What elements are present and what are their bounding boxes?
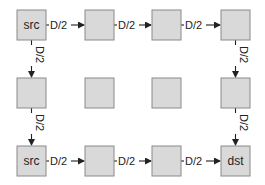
node-box (17, 78, 46, 108)
node-router (221, 10, 250, 40)
edge-label: D/2 (238, 114, 250, 131)
edge-label: D/2 (34, 46, 46, 63)
node-src: src (17, 10, 46, 40)
node-router (152, 146, 181, 176)
node-router (85, 146, 114, 176)
edge-arrow: D/2 (236, 108, 250, 145)
edge-arrow: D/2 (46, 155, 84, 167)
edge-arrow: D/2 (181, 19, 220, 31)
node-box (85, 146, 114, 176)
edge-arrow: D/2 (236, 40, 250, 77)
node-box (152, 78, 181, 108)
node-box (152, 146, 181, 176)
edge-label: D/2 (34, 114, 46, 131)
node-box (221, 78, 250, 108)
edge-label: D/2 (50, 155, 67, 167)
edge-label: D/2 (185, 19, 202, 31)
edge-arrow: D/2 (32, 108, 46, 145)
edge-label: D/2 (118, 155, 135, 167)
node-label: dst (227, 154, 244, 168)
node-dst: dst (221, 146, 250, 176)
node-router (17, 78, 46, 108)
node-router (221, 78, 250, 108)
node-box (85, 10, 114, 40)
node-box (85, 78, 114, 108)
node-box (221, 10, 250, 40)
mesh-routing-diagram: D/2D/2D/2D/2D/2D/2D/2D/2D/2D/2 srcsrcdst (0, 0, 265, 185)
node-router (152, 78, 181, 108)
node-label: src (24, 18, 40, 32)
node-label: src (24, 154, 40, 168)
edge-arrow: D/2 (114, 19, 151, 31)
edge-label: D/2 (238, 46, 250, 63)
node-src: src (17, 146, 46, 176)
node-router (152, 10, 181, 40)
node-router (85, 78, 114, 108)
edge-arrow: D/2 (46, 19, 84, 31)
node-router (85, 10, 114, 40)
edge-label: D/2 (185, 155, 202, 167)
edge-arrow: D/2 (114, 155, 151, 167)
node-box (152, 10, 181, 40)
edge-label: D/2 (50, 19, 67, 31)
edge-label: D/2 (118, 19, 135, 31)
edge-arrow: D/2 (32, 40, 46, 77)
edge-arrow: D/2 (181, 155, 220, 167)
